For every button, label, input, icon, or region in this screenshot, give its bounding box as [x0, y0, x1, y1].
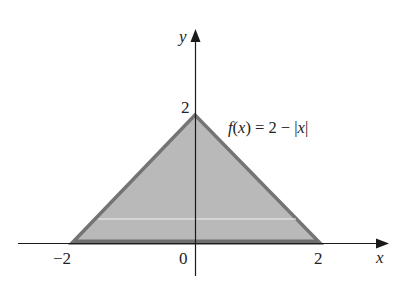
y-tick-2: 2 [181, 98, 190, 117]
x-tick-0: 0 [179, 249, 188, 268]
function-label: f(x) = 2 − |x| [228, 118, 308, 137]
function-expression: = 2 − | [251, 118, 298, 137]
x-tick-2: 2 [314, 249, 323, 268]
y-axis-arrow-icon [191, 29, 201, 42]
x-tick-neg2: −2 [53, 249, 71, 268]
function-plot: y x −2 0 2 2 f(x) = 2 − |x| [0, 0, 397, 293]
x-axis-arrow-icon [376, 239, 389, 249]
y-axis-label: y [177, 27, 187, 46]
function-abs-bar: | [305, 118, 308, 137]
x-axis-label: x [375, 248, 384, 267]
